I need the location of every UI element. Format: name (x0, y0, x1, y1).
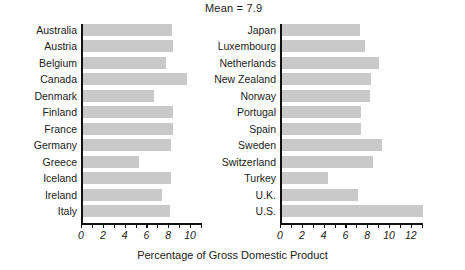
bar (83, 189, 163, 201)
category-label: U.K. (256, 190, 276, 201)
bar (282, 40, 366, 52)
axis-tick (168, 223, 169, 228)
bar (83, 205, 170, 217)
axis-tick-label: 12 (405, 229, 417, 241)
axis-tick (114, 223, 115, 228)
bar (83, 106, 173, 118)
category-label: Italy (58, 206, 77, 217)
category-label: Sweden (238, 140, 276, 151)
axis-tick-label: 8 (165, 229, 171, 241)
axis-tick (345, 223, 346, 228)
axis-tick (125, 223, 126, 228)
bar (282, 123, 362, 135)
bar (282, 189, 358, 201)
bar (282, 139, 382, 151)
axis-tick (201, 223, 202, 228)
category-label: Finland (43, 107, 77, 118)
axis-tick-label: 0 (78, 229, 84, 241)
bar (282, 90, 370, 102)
category-label: Austria (44, 41, 77, 52)
bar (282, 24, 360, 36)
axis-tick (389, 223, 390, 228)
axis-tick (291, 223, 292, 228)
category-label: New Zealand (214, 74, 276, 85)
bar (282, 205, 424, 217)
category-label: Canada (40, 74, 77, 85)
axis-tick-label: 4 (122, 229, 128, 241)
bar (83, 123, 173, 135)
bar (83, 90, 155, 102)
category-label: Greece (43, 157, 77, 168)
bar (83, 40, 173, 52)
axis-tick (411, 223, 412, 228)
axis-tick (136, 223, 137, 228)
mean-annotation: Mean = 7.9 (205, 2, 405, 14)
category-label: Japan (247, 25, 276, 36)
category-label: Norway (240, 91, 276, 102)
axis-tick-label: 2 (100, 229, 106, 241)
category-label: Spain (249, 124, 276, 135)
category-label: Turkey (244, 173, 276, 184)
axis-tick (422, 223, 423, 228)
category-label: Switzerland (222, 157, 276, 168)
left-axis-baseline (81, 223, 201, 224)
category-label: Iceland (43, 173, 77, 184)
category-label: France (44, 124, 77, 135)
axis-tick-label: 2 (299, 229, 305, 241)
axis-tick (146, 223, 147, 228)
axis-tick-label: 6 (342, 229, 348, 241)
axis-tick (103, 223, 104, 228)
axis-tick (378, 223, 379, 228)
axis-tick-label: 8 (364, 229, 370, 241)
bar (282, 73, 371, 85)
category-label: Luxembourg (218, 41, 276, 52)
category-label: U.S. (256, 206, 276, 217)
bar (83, 57, 167, 69)
axis-tick (190, 223, 191, 228)
axis-tick-label: 4 (321, 229, 327, 241)
bar (83, 156, 140, 168)
axis-tick (324, 223, 325, 228)
axis-tick (280, 223, 281, 228)
category-label: Australia (36, 25, 77, 36)
bar-chart-figure: Mean = 7.9 AustraliaAustriaBelgiumCanada… (0, 0, 465, 270)
axis-tick (335, 223, 336, 228)
axis-tick-label: 0 (277, 229, 283, 241)
axis-tick-label: 10 (184, 229, 196, 241)
category-label: Ireland (45, 190, 77, 201)
axis-tick (400, 223, 401, 228)
bar (83, 139, 171, 151)
bar (83, 172, 171, 184)
category-label: Portugal (237, 107, 276, 118)
axis-tick (92, 223, 93, 228)
axis-tick (81, 223, 82, 228)
category-label: Germany (34, 140, 77, 151)
bar (282, 57, 379, 69)
bar (282, 106, 362, 118)
category-label: Belgium (39, 58, 77, 69)
axis-tick (157, 223, 158, 228)
axis-tick (356, 223, 357, 228)
axis-tick-label: 6 (143, 229, 149, 241)
axis-tick (302, 223, 303, 228)
category-label: Netherlands (219, 58, 276, 69)
axis-tick (179, 223, 180, 228)
bar (83, 24, 172, 36)
category-label: Denmark (34, 91, 77, 102)
bar (282, 172, 329, 184)
axis-tick (313, 223, 314, 228)
bar (282, 156, 374, 168)
axis-tick-label: 10 (383, 229, 395, 241)
x-axis-title: Percentage of Gross Domestic Product (0, 249, 465, 261)
bar (83, 73, 188, 85)
axis-tick (367, 223, 368, 228)
